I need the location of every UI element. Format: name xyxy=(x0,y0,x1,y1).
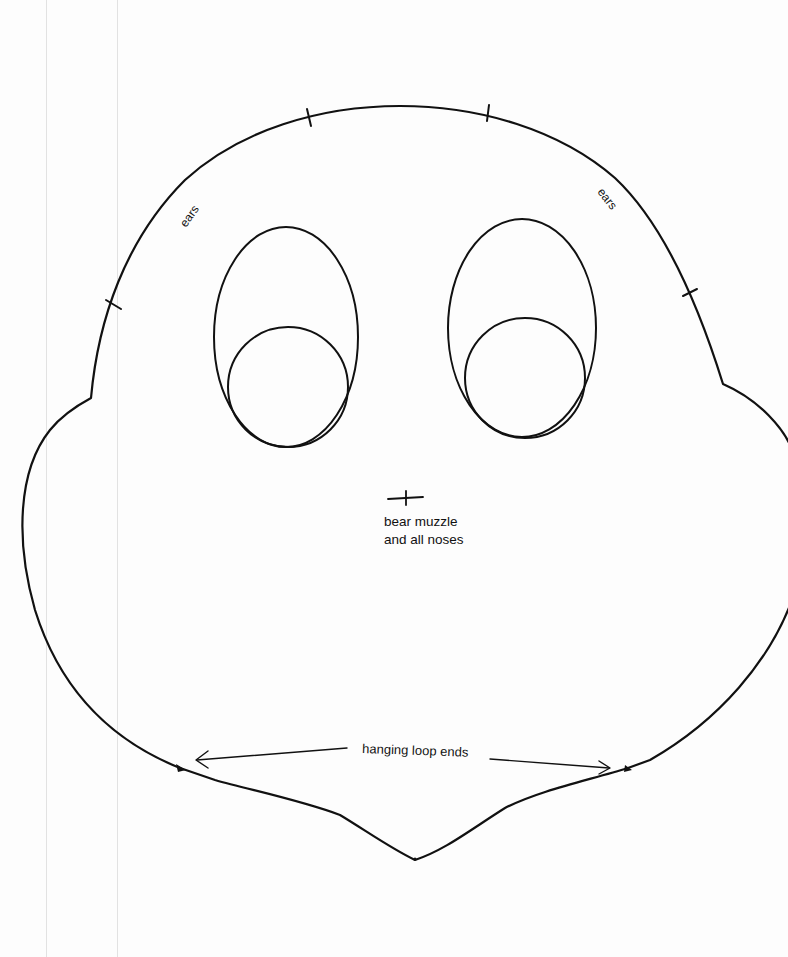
right-eye xyxy=(448,219,596,438)
muzzle-label-line1: bear muzzle xyxy=(384,514,458,529)
hanging-loop-label: hanging loop ends xyxy=(362,741,469,760)
left-eye xyxy=(214,227,358,447)
bear-head-pattern: ears ears bear muzzle and all noses hang… xyxy=(0,0,788,957)
pattern-sheet: ears ears bear muzzle and all noses hang… xyxy=(0,0,788,957)
ears-label-right: ears xyxy=(595,185,620,212)
muzzle-label-line2: and all noses xyxy=(384,532,464,547)
hanging-loop-arrow-right xyxy=(490,759,610,774)
left-eye-inner-circle xyxy=(228,327,348,447)
muzzle-cross-mark xyxy=(388,491,423,505)
loop-end-mark-left xyxy=(176,764,186,772)
chin-point xyxy=(413,857,416,860)
right-eye-inner-circle xyxy=(465,318,585,438)
ears-label-left: ears xyxy=(177,203,202,230)
ear-tick-right-upper xyxy=(487,105,489,121)
hanging-loop-arrow-left xyxy=(196,748,347,768)
left-eye-outer-ellipse xyxy=(214,227,358,447)
